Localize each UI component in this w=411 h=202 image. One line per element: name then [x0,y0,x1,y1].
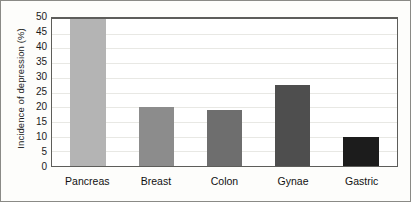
x-axis-tick-label: Gynae [259,171,328,189]
bar-slot [122,19,190,166]
bar[interactable] [343,137,378,166]
bar[interactable] [139,107,174,166]
y-axis-tick-label: 5 [41,147,47,157]
bar-slot [327,19,395,166]
bar-slot [190,19,258,166]
bar[interactable] [275,85,310,166]
y-axis-tick-label: 45 [36,27,47,37]
x-axis-tick-label-text: Gynae [278,175,309,187]
x-axis-tick-label-text: Pancreas [65,175,109,187]
figure-frame: Incidence of depression (%) 051015202530… [0,0,411,202]
x-axis-tick-label-text: Breast [141,175,171,187]
plot-area [51,17,398,167]
y-axis-tick-label: 25 [36,87,47,97]
y-axis-tick-label: 0 [41,162,47,172]
bar-slot [259,19,327,166]
x-axis-tick-label: Gastric [327,171,396,189]
y-axis-tick-label: 20 [36,102,47,112]
y-axis-tick-label: 10 [36,132,47,142]
x-axis-tick-label: Pancreas [53,171,122,189]
x-axis-tick-label: Breast [122,171,191,189]
x-axis-tick-label-text: Colon [211,175,238,187]
x-axis-tick-label-text: Gastric [345,175,378,187]
bar[interactable] [70,19,105,166]
bar-group [52,19,397,166]
x-axis-tick-label: Colon [190,171,259,189]
bar-slot [54,19,122,166]
bar[interactable] [207,110,242,166]
y-axis-title-text: Incidence of depression (%) [15,28,26,148]
y-axis-tick-label: 40 [36,42,47,52]
x-axis-tick-labels: PancreasBreastColonGynaeGastric [51,171,398,189]
y-axis-tick-labels: 05101520253035404550 [27,17,47,167]
y-axis-tick-label: 35 [36,57,47,67]
y-axis-tick-label: 15 [36,117,47,127]
y-axis-tick-label: 50 [36,12,47,22]
y-axis-tick-label: 30 [36,72,47,82]
